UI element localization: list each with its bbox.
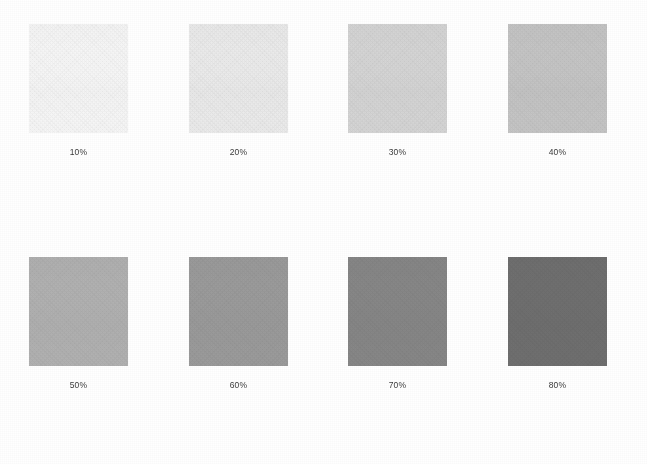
swatch-patch-10[interactable] [29, 24, 128, 133]
swatch-patch-40[interactable] [508, 24, 607, 133]
swatch-cell-10: 10% [29, 24, 128, 157]
swatch-patch-20[interactable] [189, 24, 288, 133]
swatch-label-80: 80% [508, 380, 607, 390]
swatch-label-30: 30% [348, 147, 447, 157]
swatch-patch-50[interactable] [29, 257, 128, 366]
swatch-patch-70[interactable] [348, 257, 447, 366]
swatch-patch-80[interactable] [508, 257, 607, 366]
swatch-label-20: 20% [189, 147, 288, 157]
swatch-label-40: 40% [508, 147, 607, 157]
swatch-patch-60[interactable] [189, 257, 288, 366]
swatch-patch-30[interactable] [348, 24, 447, 133]
swatch-cell-50: 50% [29, 257, 128, 390]
swatch-label-60: 60% [189, 380, 288, 390]
swatch-label-70: 70% [348, 380, 447, 390]
swatch-cell-30: 30% [348, 24, 447, 157]
swatch-label-50: 50% [29, 380, 128, 390]
swatch-cell-20: 20% [189, 24, 288, 157]
tint-chart: 10% 20% 30% 40% 50% 60% 70% 80% [0, 0, 647, 464]
swatch-cell-40: 40% [508, 24, 607, 157]
swatch-cell-70: 70% [348, 257, 447, 390]
swatch-label-10: 10% [29, 147, 128, 157]
swatch-cell-80: 80% [508, 257, 607, 390]
swatch-cell-60: 60% [189, 257, 288, 390]
